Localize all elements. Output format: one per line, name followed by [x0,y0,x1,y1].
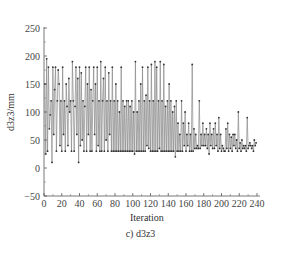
x-tick-label: 200 [214,198,229,209]
y-tick-label: 0 [35,163,40,174]
x-tick-label: 220 [232,198,247,209]
x-tick-label: 140 [161,198,176,209]
x-tick-label: 180 [196,198,211,209]
x-axis-title: Iteration [130,212,164,223]
x-tick-label: 240 [250,198,265,209]
y-tick-label: 200 [25,51,40,62]
x-axis-ticks: 020406080100120140160180200220240 [42,193,265,209]
data-series [45,59,256,163]
series-line [45,59,256,163]
y-tick-label: −50 [24,191,40,202]
y-tick-label: 50 [30,135,40,146]
x-tick-label: 20 [57,198,67,209]
y-tick-label: 250 [25,23,40,34]
x-tick-label: 80 [110,198,120,209]
figure-caption: c) d3z3 [0,228,281,239]
x-tick-label: 120 [143,198,158,209]
x-tick-label: 60 [92,198,102,209]
y-tick-label: 100 [25,107,40,118]
x-tick-label: 100 [125,198,140,209]
x-tick-label: 0 [42,198,47,209]
x-tick-label: 160 [179,198,194,209]
y-axis-title: d3z3/mm [5,93,16,131]
y-tick-label: 150 [25,79,40,90]
x-tick-label: 40 [75,198,85,209]
